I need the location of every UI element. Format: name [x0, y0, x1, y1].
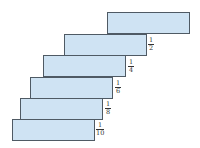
denominator: 4	[129, 67, 133, 73]
block-2	[64, 34, 147, 56]
numerator: 1	[116, 80, 120, 86]
denominator: 2	[149, 45, 153, 51]
numerator: 1	[149, 37, 153, 43]
overhang-label-eighth: 1 8	[105, 101, 111, 115]
block-6	[12, 119, 95, 141]
denominator: 8	[106, 109, 110, 115]
overhang-label-half: 1 2	[148, 37, 154, 51]
overhang-label-tenth: 1 10	[96, 122, 104, 136]
numerator: 1	[106, 101, 110, 107]
block-4	[30, 77, 113, 99]
block-3	[43, 55, 126, 77]
numerator: 1	[98, 122, 102, 128]
overhang-label-sixth: 1 6	[115, 80, 121, 94]
block-1	[107, 12, 190, 34]
denominator: 6	[116, 88, 120, 94]
overhang-label-quarter: 1 4	[128, 59, 134, 73]
block-5	[20, 98, 103, 120]
denominator: 10	[96, 130, 104, 136]
numerator: 1	[129, 59, 133, 65]
